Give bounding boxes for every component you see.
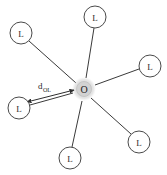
ligand-right-label: L	[147, 62, 153, 72]
ligand-right: L	[139, 55, 161, 77]
central-atom: O	[72, 77, 96, 101]
ligand-bottom-label: L	[67, 154, 73, 164]
bond-to-left	[30, 93, 73, 105]
ligand-left: L	[8, 97, 30, 119]
bond-to-bottom	[72, 101, 82, 147]
distance-label-subscript: OL	[43, 87, 51, 93]
diagram-canvas: O d OL LLLLLL	[0, 0, 167, 175]
ligand-left-label: L	[16, 104, 22, 114]
bond-to-right	[95, 69, 139, 85]
ligand-top-label: L	[92, 13, 98, 23]
ligand-bottom-right-label: L	[136, 138, 142, 148]
ligand-top-left: L	[10, 22, 32, 44]
central-atom-label: O	[80, 84, 87, 95]
coordination-complex-figure: O d OL LLLLLL	[0, 0, 167, 175]
bond-to-top-left	[29, 41, 76, 83]
ligand-top-left-label: L	[18, 29, 24, 39]
bond-to-top	[86, 28, 94, 78]
ligand-bottom: L	[59, 147, 81, 169]
bond-to-bottom-right	[91, 98, 131, 134]
ligand-top: L	[84, 6, 106, 28]
ligand-bottom-right: L	[128, 131, 150, 153]
